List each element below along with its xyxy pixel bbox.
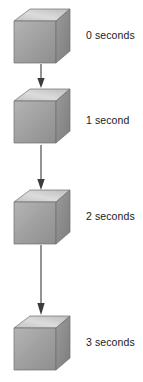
cube-left-face	[14, 202, 56, 244]
cube-2	[12, 189, 72, 245]
arrow-2-to-3	[34, 245, 48, 315]
arrow-0-to-1	[34, 64, 48, 88]
stage-label-1: 1 second	[86, 114, 143, 126]
stage-label-0: 0 seconds	[86, 29, 143, 41]
falling-cube-diagram: 0 seconds	[0, 0, 143, 382]
cube-1	[12, 88, 72, 144]
cube-left-face	[14, 328, 56, 370]
cube-3	[12, 315, 72, 371]
cube-0	[12, 8, 72, 64]
cube-left-face	[14, 101, 56, 143]
stage-label-3: 3 seconds	[86, 336, 143, 348]
stage-label-2: 2 seconds	[86, 210, 143, 222]
arrowhead-icon	[37, 303, 44, 315]
arrow-1-to-2	[34, 145, 48, 190]
arrowhead-icon	[37, 78, 44, 88]
cube-left-face	[14, 21, 56, 63]
